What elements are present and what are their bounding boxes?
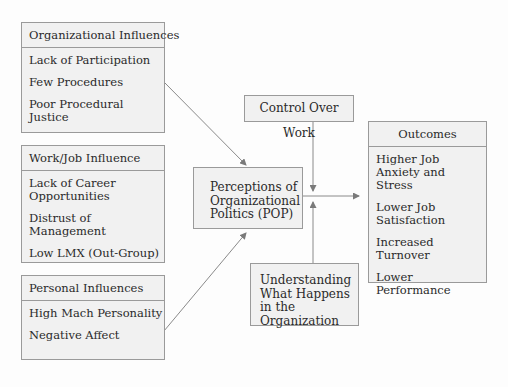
understanding-box: Understanding What Happens in the Organi… <box>250 263 359 326</box>
org-item: Poor Procedural Justice <box>29 98 164 124</box>
work-job-influence-box: Work/Job Influence Lack of Career Opport… <box>21 145 165 263</box>
pop-label: Perceptions of Organizational Politics (… <box>210 181 300 222</box>
outcomes-title: Outcomes <box>369 122 486 147</box>
outcome-item: Lower Job Satisfaction <box>376 201 456 227</box>
org-item: Lack of Participation <box>29 54 164 67</box>
organizational-influences-title: Organizational Influences <box>22 23 164 48</box>
org-item: Few Procedures <box>29 76 164 89</box>
personal-item: High Mach Personality <box>29 307 164 320</box>
control-over-work-box: Control Over Work <box>244 95 354 122</box>
arrow-org-to-pop <box>164 82 246 165</box>
pop-box: Perceptions of Organizational Politics (… <box>193 167 303 229</box>
work-item: Lack of Career Opportunities <box>29 177 139 203</box>
arrow-personal-to-pop <box>164 233 246 331</box>
personal-item: Negative Affect <box>29 329 164 342</box>
personal-influences-box: Personal Influences High Mach Personalit… <box>21 275 165 360</box>
personal-influences-title: Personal Influences <box>22 276 164 301</box>
understanding-label: Understanding What Happens in the Organi… <box>260 274 356 328</box>
outcome-item: Increased Turnover <box>376 236 486 262</box>
work-job-influence-title: Work/Job Influence <box>22 146 164 171</box>
control-over-work-label: Control Over Work <box>245 96 353 146</box>
work-item: Low LMX (Out-Group) <box>29 247 164 260</box>
organizational-influences-box: Organizational Influences Lack of Partic… <box>21 22 165 133</box>
work-item: Distrust of Management <box>29 212 164 238</box>
outcomes-box: Outcomes Higher Job Anxiety and Stress L… <box>368 121 487 283</box>
outcome-item: Higher Job Anxiety and Stress <box>376 153 476 192</box>
outcome-item: Lower Performance <box>376 271 486 297</box>
